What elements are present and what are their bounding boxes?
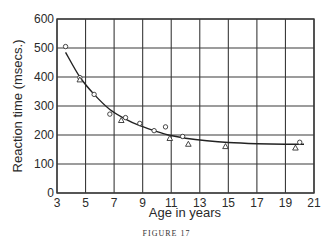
grid xyxy=(57,19,314,193)
data-markers xyxy=(63,44,302,150)
x-tick-label: 3 xyxy=(54,196,61,210)
x-tick-label: 15 xyxy=(222,196,236,210)
y-tick-label: 600 xyxy=(34,12,54,26)
fitted-curve xyxy=(66,52,304,144)
x-tick-label: 7 xyxy=(111,196,118,210)
tick-labels: 35791113151719210100200300400500600 xyxy=(34,12,321,210)
circle-marker xyxy=(152,128,156,132)
circle-marker xyxy=(180,134,184,138)
y-tick-label: 100 xyxy=(34,157,54,171)
x-tick-label: 9 xyxy=(139,196,146,210)
triangle-marker xyxy=(293,145,299,150)
y-tick-label: 0 xyxy=(47,186,54,200)
curve-path xyxy=(66,52,304,144)
circle-marker xyxy=(108,112,112,116)
triangle-marker xyxy=(223,144,229,149)
x-tick-label: 5 xyxy=(82,196,89,210)
y-tick-label: 500 xyxy=(34,41,54,55)
circle-marker xyxy=(92,92,96,96)
x-tick-label: 17 xyxy=(250,196,264,210)
y-tick-label: 400 xyxy=(34,70,54,84)
y-axis-label: Reaction time (msecs.) xyxy=(10,40,25,173)
circle-marker xyxy=(298,140,302,144)
x-tick-label: 19 xyxy=(279,196,293,210)
circle-marker xyxy=(123,115,127,119)
circle-marker xyxy=(138,121,142,125)
circle-marker xyxy=(63,44,67,48)
reaction-time-chart: 35791113151719210100200300400500600 Age … xyxy=(0,0,333,247)
triangle-marker xyxy=(186,141,192,146)
figure-caption: FIGURE 17 xyxy=(0,229,333,238)
circle-marker xyxy=(163,125,167,129)
y-tick-label: 200 xyxy=(34,128,54,142)
x-tick-label: 21 xyxy=(307,196,321,210)
x-axis-label: Age in years xyxy=(149,205,222,220)
y-tick-label: 300 xyxy=(34,99,54,113)
